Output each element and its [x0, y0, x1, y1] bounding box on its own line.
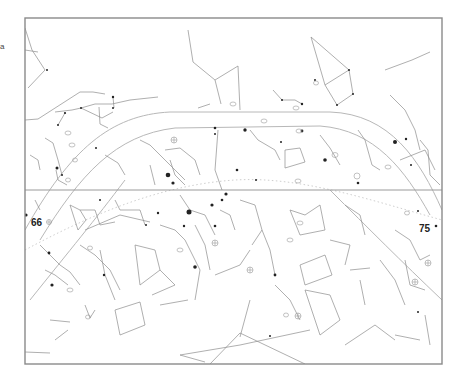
constellation-lines — [25, 28, 440, 364]
declination-arc-outer — [25, 112, 442, 230]
map-number-label-right: 75 — [419, 223, 431, 234]
map-number-label-left: 66 — [31, 217, 43, 228]
stars — [24, 69, 437, 337]
declination-arc-inner — [40, 126, 430, 240]
sky-content — [24, 28, 442, 364]
star-chart: 66 75 — [0, 0, 464, 385]
